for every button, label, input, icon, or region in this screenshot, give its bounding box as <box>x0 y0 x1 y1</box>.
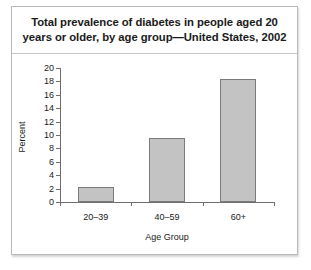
chart-axes: 02468101214161820 20–3940–5960+ <box>60 68 274 202</box>
y-tick-label: 8 <box>49 144 54 153</box>
y-tick <box>56 135 60 136</box>
figure-title-line-1: Total prevalence of diabetes in people a… <box>31 16 278 28</box>
y-tick-label: 20 <box>44 64 54 73</box>
x-category-label: 20–39 <box>83 212 108 222</box>
y-tick-label: 14 <box>44 104 54 113</box>
y-tick <box>56 68 60 69</box>
bar <box>149 138 185 202</box>
y-tick <box>56 189 60 190</box>
y-tick-label: 0 <box>49 198 54 207</box>
y-tick-label: 4 <box>49 171 54 180</box>
y-tick-label: 16 <box>44 90 54 99</box>
y-tick <box>56 122 60 123</box>
x-category-label: 60+ <box>231 212 246 222</box>
y-tick <box>56 148 60 149</box>
x-tick <box>131 202 132 206</box>
bar <box>220 79 256 202</box>
figure-title-text: Total prevalence of diabetes in people a… <box>23 15 287 45</box>
y-tick-label: 10 <box>44 131 54 140</box>
x-axis-line <box>60 202 274 203</box>
bar <box>78 187 114 202</box>
figure-title: Total prevalence of diabetes in people a… <box>12 7 297 54</box>
y-tick <box>56 162 60 163</box>
y-tick <box>56 175 60 176</box>
plot-region: Percent 02468101214161820 20–3940–5960+ … <box>12 54 299 255</box>
y-tick-label: 6 <box>49 157 54 166</box>
y-tick <box>56 108 60 109</box>
x-category-label: 40–59 <box>154 212 179 222</box>
y-tick <box>56 95 60 96</box>
figure-card: Total prevalence of diabetes in people a… <box>11 6 298 255</box>
y-tick-label: 18 <box>44 77 54 86</box>
figure-title-line-2: years or older, by age group—United Stat… <box>23 31 287 43</box>
x-tick <box>60 202 61 206</box>
x-tick <box>203 202 204 206</box>
y-axis-line <box>60 68 61 202</box>
y-tick-label: 12 <box>44 117 54 126</box>
x-tick <box>274 202 275 206</box>
y-tick-label: 2 <box>49 184 54 193</box>
y-axis-title: Percent <box>17 107 27 167</box>
x-axis-title: Age Group <box>60 232 274 242</box>
y-tick <box>56 81 60 82</box>
